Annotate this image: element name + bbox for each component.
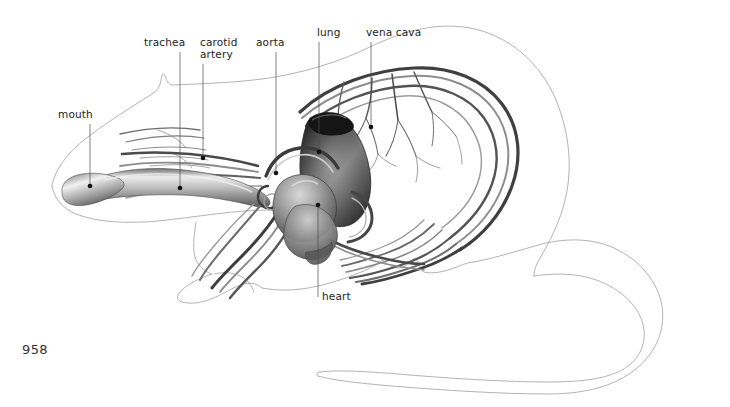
branch-a2 bbox=[366, 118, 378, 154]
branch-b2 bbox=[398, 120, 416, 156]
tail-upper bbox=[318, 240, 663, 394]
label-carotid-text: carotid bbox=[200, 36, 237, 48]
cranial-fan-2 bbox=[126, 136, 204, 142]
label-carotid-artery[interactable]: carotid artery bbox=[200, 36, 237, 160]
tail-lower bbox=[320, 274, 644, 382]
label-lung-text: lung bbox=[317, 26, 341, 38]
label-heart-text: heart bbox=[322, 290, 351, 302]
label-artery-text: artery bbox=[200, 48, 233, 60]
lung-hilum bbox=[309, 112, 354, 135]
branch-b2a bbox=[416, 156, 418, 182]
capillary-branches bbox=[120, 72, 462, 182]
tail-tip bbox=[317, 372, 320, 376]
cranial-fan-6 bbox=[158, 130, 186, 148]
label-vena-cava-text: vena cava bbox=[366, 26, 421, 38]
branch-b2b bbox=[416, 156, 440, 168]
leader-dot-lung bbox=[317, 150, 322, 155]
leader-dot-carotid-artery bbox=[201, 156, 206, 161]
leader-dot-trachea bbox=[178, 186, 183, 191]
leader-dot-vena-cava bbox=[369, 125, 374, 130]
cranial-fan-4 bbox=[140, 157, 208, 160]
leader-dot-mouth bbox=[88, 184, 93, 189]
label-trachea-text: trachea bbox=[144, 36, 185, 48]
anatomy-illustration: mouth trachea carotid artery aorta lung bbox=[0, 0, 730, 407]
leader-dot-heart bbox=[316, 203, 321, 208]
label-trachea[interactable]: trachea bbox=[144, 36, 185, 190]
label-aorta-text: aorta bbox=[256, 36, 284, 48]
branch-c2 bbox=[432, 112, 456, 136]
branch-a2b bbox=[378, 154, 396, 166]
page-number: 958 bbox=[22, 342, 48, 357]
leader-dot-aorta bbox=[274, 171, 279, 176]
heart-group bbox=[273, 175, 338, 265]
branch-b1 bbox=[386, 120, 398, 156]
branch-c2a bbox=[456, 136, 462, 164]
branch-c bbox=[414, 72, 432, 112]
cranial-fan-3 bbox=[132, 147, 206, 150]
branch-c1 bbox=[432, 112, 434, 146]
figure-container: mouth trachea carotid artery aorta lung bbox=[0, 0, 730, 407]
label-mouth-text: mouth bbox=[58, 108, 93, 120]
airway-group bbox=[62, 168, 270, 207]
